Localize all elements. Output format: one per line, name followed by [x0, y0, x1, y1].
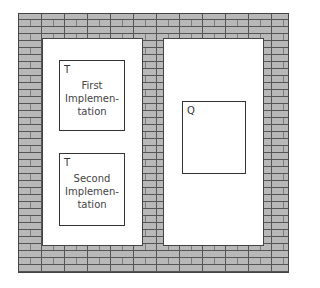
q-box: Q [182, 101, 246, 174]
box-tag: Q [187, 105, 195, 116]
box-tag: T [64, 64, 70, 75]
first-implementation-box: T First Implemen- tation [59, 60, 125, 131]
box-label: First Implemen- tation [60, 79, 124, 118]
box-label: Second Implemen- tation [60, 172, 124, 211]
box-tag: T [64, 157, 70, 168]
second-implementation-box: T Second Implemen- tation [59, 153, 125, 226]
